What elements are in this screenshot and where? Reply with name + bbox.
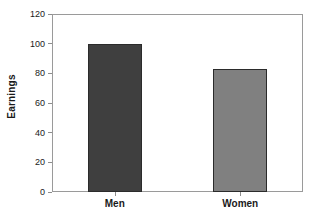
y-axis-ticks: 120 100 80 60 40 20 0 <box>0 0 52 221</box>
y-tick: 80 <box>35 67 52 79</box>
y-tick: 60 <box>35 97 52 109</box>
x-axis-ticks: Men Women <box>52 192 303 221</box>
y-tick-label: 60 <box>35 97 48 109</box>
x-category-label-men: Men <box>70 198 160 209</box>
bar-women[interactable] <box>213 69 267 192</box>
y-tick-label: 40 <box>35 127 48 139</box>
bar-men[interactable] <box>88 44 142 192</box>
y-tick-label: 20 <box>35 156 48 168</box>
bars-layer <box>52 14 303 192</box>
y-tick: 20 <box>35 156 52 168</box>
y-tick: 100 <box>30 38 52 50</box>
y-tick-label: 100 <box>30 38 48 50</box>
x-tick-mark <box>240 192 241 196</box>
y-tick-label: 120 <box>30 8 48 20</box>
y-tick: 120 <box>30 8 52 20</box>
y-axis-title: Earnings <box>2 0 20 192</box>
y-tick: 40 <box>35 127 52 139</box>
y-tick-label: 0 <box>40 186 48 198</box>
y-tick: 0 <box>40 186 52 198</box>
bar-chart: Earnings 120 100 80 60 40 20 0 <box>0 0 314 221</box>
y-axis-title-label: Earnings <box>6 74 17 118</box>
x-tick-mark <box>115 192 116 196</box>
x-category-label-women: Women <box>195 198 285 209</box>
y-tick-label: 80 <box>35 67 48 79</box>
